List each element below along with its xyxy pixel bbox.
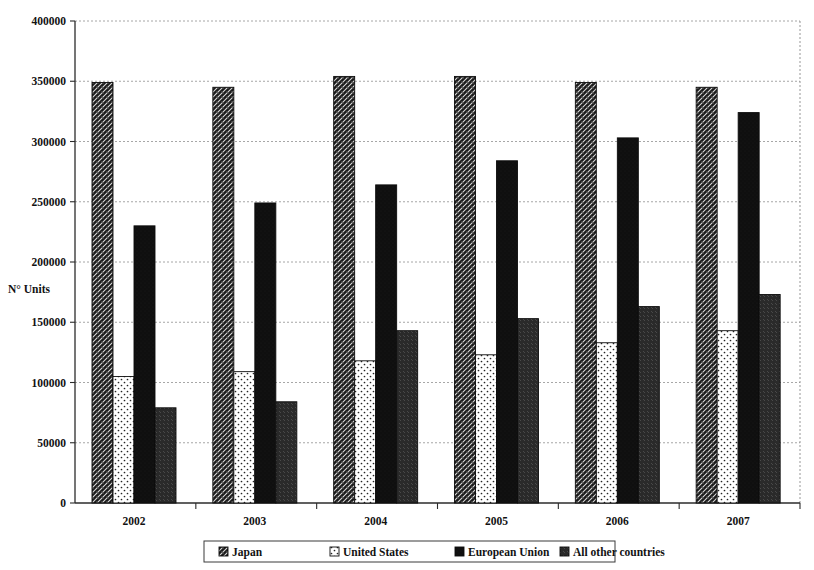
bar[interactable] <box>596 343 617 503</box>
legend-label[interactable]: Japan <box>232 546 263 559</box>
bar-chart: 0500001000001500002000002500003000003500… <box>0 0 814 570</box>
x-category-label: 2002 <box>123 515 146 527</box>
bar[interactable] <box>155 408 176 503</box>
bar[interactable] <box>334 76 355 503</box>
bar[interactable] <box>617 138 638 503</box>
bar[interactable] <box>696 87 717 503</box>
y-axis-title: N° Units <box>8 283 51 295</box>
y-tick-label: 200000 <box>32 256 67 268</box>
bar[interactable] <box>738 113 759 503</box>
y-tick-label: 400000 <box>32 15 67 27</box>
x-category-label: 2006 <box>606 515 629 527</box>
legend-swatch <box>330 547 339 556</box>
bar[interactable] <box>134 226 155 503</box>
bar[interactable] <box>518 319 539 503</box>
bar[interactable] <box>497 161 518 503</box>
bar[interactable] <box>638 307 659 503</box>
legend-swatch <box>560 547 569 556</box>
bar[interactable] <box>276 402 297 503</box>
y-tick-label: 350000 <box>32 75 67 87</box>
bar[interactable] <box>355 361 376 503</box>
bar[interactable] <box>476 355 497 503</box>
bar[interactable] <box>455 76 476 503</box>
x-category-label: 2005 <box>485 515 508 527</box>
bar[interactable] <box>213 87 234 503</box>
legend-swatch <box>455 547 464 556</box>
bar[interactable] <box>234 372 255 503</box>
bar[interactable] <box>717 331 738 503</box>
x-category-label: 2007 <box>727 515 750 527</box>
bar[interactable] <box>255 203 276 503</box>
bar[interactable] <box>759 295 780 503</box>
y-tick-label: 300000 <box>32 136 67 148</box>
legend-label[interactable]: United States <box>343 546 409 558</box>
y-tick-label: 150000 <box>32 316 67 328</box>
bar[interactable] <box>397 331 418 503</box>
y-tick-label: 0 <box>60 497 66 509</box>
bar[interactable] <box>575 82 596 503</box>
bar[interactable] <box>92 82 113 503</box>
legend-label[interactable]: European Union <box>468 546 550 559</box>
x-category-label: 2004 <box>364 515 387 527</box>
bar[interactable] <box>376 185 397 503</box>
legend: JapanUnited StatesEuropean UnionAll othe… <box>204 541 665 562</box>
y-tick-label: 50000 <box>37 437 66 449</box>
bar[interactable] <box>113 376 134 503</box>
legend-label[interactable]: All other countries <box>573 546 665 558</box>
y-tick-label: 100000 <box>32 377 67 389</box>
legend-border <box>204 541 615 562</box>
chart-container: 0500001000001500002000002500003000003500… <box>0 0 814 570</box>
legend-swatch <box>219 547 228 556</box>
x-category-label: 2003 <box>243 515 266 527</box>
y-tick-label: 250000 <box>32 196 67 208</box>
